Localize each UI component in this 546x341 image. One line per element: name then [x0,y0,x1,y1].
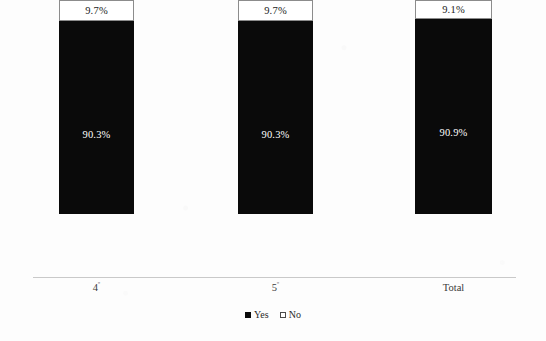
bar-segment-no-label: 9.7% [264,5,287,16]
legend-swatch-no-icon [280,312,286,318]
stacked-bar[interactable]: 9.7% 90.3% [59,0,134,214]
bar-segment-no-label: 9.7% [85,5,108,16]
bar-segment-yes[interactable]: 90.3% [238,21,313,214]
bar-group-0: 9.7% 90.3% [59,0,134,214]
stacked-bar[interactable]: 9.7% 90.3% [238,0,313,214]
bar-segment-yes-label: 90.3% [261,129,289,140]
bar-group-1: 9.7% 90.3% [238,0,313,214]
legend-label-yes: Yes [254,309,269,320]
bar-segment-yes-label: 90.3% [82,129,110,140]
plot-area: 9.7% 90.3% 4º 9.7% 90.3% 5º [0,0,546,278]
bar-segment-no-label: 9.1% [442,4,465,15]
stacked-bar-chart: 9.7% 90.3% 4º 9.7% 90.3% 5º [0,0,546,341]
bar-segment-no[interactable]: 9.7% [238,0,313,21]
bar-segment-yes[interactable]: 90.9% [415,19,492,214]
category-axis-line [33,277,516,278]
legend-entry-no[interactable]: No [280,309,301,320]
category-label-base: Total [443,282,464,293]
bar-segment-no[interactable]: 9.1% [415,0,492,19]
stacked-bar[interactable]: 9.1% 90.9% [415,0,492,214]
chart-legend: Yes No [0,309,546,320]
legend-swatch-yes-icon [245,312,251,318]
bar-group-2: 9.1% 90.9% [415,0,492,214]
bar-segment-yes[interactable]: 90.3% [59,21,134,214]
legend-entry-yes[interactable]: Yes [245,309,269,320]
bar-segment-yes-label: 90.9% [439,127,467,138]
category-label-0: 4º [59,282,134,293]
legend-label-no: No [289,309,301,320]
category-label-1: 5º [238,282,313,293]
category-label-sup: º [98,281,100,288]
category-label-sup: º [277,281,279,288]
category-label-2: Total [415,282,492,293]
bar-segment-no[interactable]: 9.7% [59,0,134,21]
